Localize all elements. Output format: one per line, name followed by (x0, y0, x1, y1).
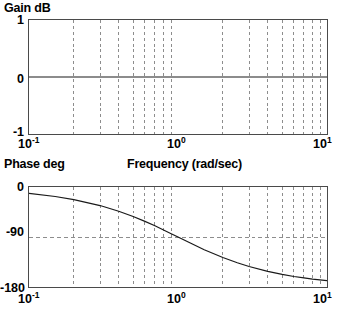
gain-xtick-right-exponent: 1 (327, 135, 332, 145)
gain-plot-area (28, 19, 328, 135)
phase-xtick-left-mantissa: 10 (18, 292, 32, 306)
phase-xtick-middle: 100 (167, 293, 186, 306)
bode-plot-figure: Gain dB 1 0 -1 10-1 100 101 Phase deg Fr… (0, 0, 337, 317)
gain-xtick-left-mantissa: 10 (18, 137, 32, 151)
phase-ytick-middle: -90 (0, 226, 24, 239)
phase-plot-canvas (29, 187, 327, 287)
phase-xtick-middle-exponent: 0 (181, 290, 186, 300)
gain-plot-canvas (29, 20, 327, 134)
gain-xtick-middle-mantissa: 10 (167, 137, 181, 151)
phase-ytick-top: 0 (0, 181, 24, 194)
phase-xtick-right: 101 (313, 293, 332, 306)
gain-ytick-top: 1 (0, 14, 24, 27)
gain-xtick-right-mantissa: 10 (313, 137, 327, 151)
phase-xtick-right-exponent: 1 (327, 290, 332, 300)
phase-xtick-right-mantissa: 10 (313, 292, 327, 306)
gain-xtick-left: 10-1 (18, 138, 39, 151)
gain-ytick-middle: 0 (0, 73, 24, 86)
gain-xtick-left-exponent: -1 (32, 135, 40, 145)
gain-xtick-right: 101 (313, 138, 332, 151)
phase-xtick-left: 10-1 (18, 293, 39, 306)
phase-xtick-middle-mantissa: 10 (167, 292, 181, 306)
frequency-axis-title: Frequency (rad/sec) (127, 158, 242, 171)
phase-axis-heading: Phase deg (4, 158, 65, 171)
gain-xtick-middle: 100 (167, 138, 186, 151)
phase-xtick-left-exponent: -1 (32, 290, 40, 300)
phase-plot-area (28, 186, 328, 288)
gain-xtick-middle-exponent: 0 (181, 135, 186, 145)
gain-axis-heading: Gain dB (4, 2, 51, 15)
